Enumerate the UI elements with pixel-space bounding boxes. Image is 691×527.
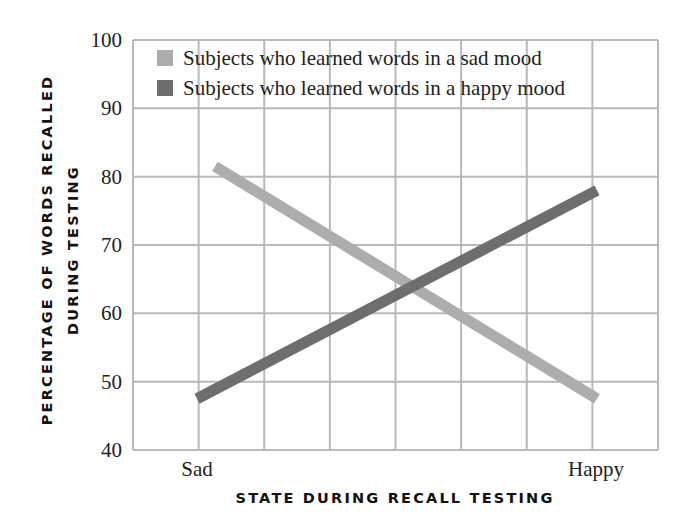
legend: Subjects who learned words in a sad mood… (157, 46, 566, 100)
legend-label: Subjects who learned words in a happy mo… (183, 76, 566, 100)
legend-swatch (157, 80, 173, 96)
y-tick-label: 70 (101, 233, 122, 257)
series-lines (197, 166, 597, 398)
y-axis-title-2: DURING TESTING (65, 165, 81, 335)
chart: 405060708090100 SadHappy Subjects who le… (0, 0, 691, 527)
y-tick-labels: 405060708090100 (91, 28, 123, 462)
legend-label: Subjects who learned words in a sad mood (183, 46, 542, 70)
y-tick-label: 90 (101, 96, 122, 120)
y-tick-label: 60 (101, 301, 122, 325)
y-tick-label: 50 (101, 370, 122, 394)
x-tick-label: Happy (568, 457, 624, 481)
x-axis-title: STATE DURING RECALL TESTING (235, 490, 554, 506)
y-tick-label: 100 (91, 28, 123, 52)
y-tick-label: 40 (101, 438, 122, 462)
legend-swatch (157, 50, 173, 66)
y-tick-label: 80 (101, 165, 122, 189)
y-axis-title: PERCENTAGE OF WORDS RECALLED (39, 75, 55, 425)
y-axis-title-line-1: PERCENTAGE OF WORDS RECALLED (39, 75, 55, 425)
x-tick-labels: SadHappy (181, 457, 624, 481)
y-axis-title-line-2: DURING TESTING (65, 165, 81, 335)
x-tick-label: Sad (181, 457, 213, 481)
